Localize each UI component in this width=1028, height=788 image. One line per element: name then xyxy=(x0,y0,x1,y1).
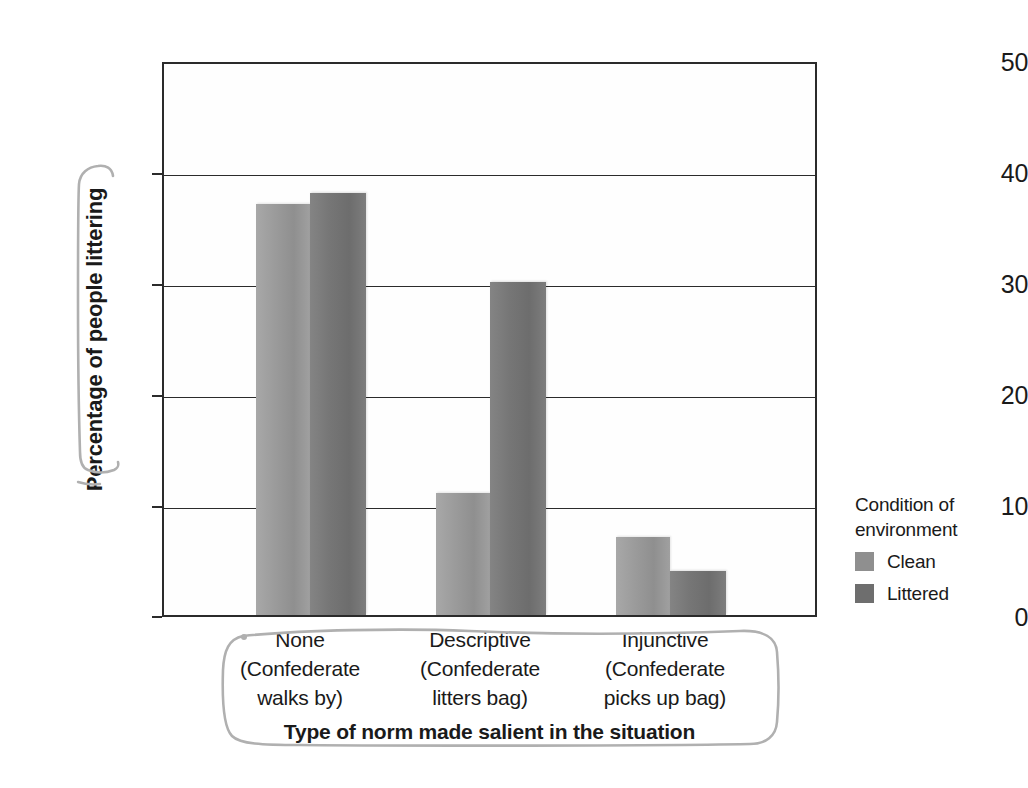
bar-injunctive-littered xyxy=(670,571,726,615)
x-axis-title: Type of norm made salient in the situati… xyxy=(162,720,817,744)
y-tick-mark-30 xyxy=(152,284,162,286)
y-tick-label-40: 40 xyxy=(982,161,1028,186)
legend-label-littered: Littered xyxy=(887,584,949,603)
bar-descriptive-littered xyxy=(490,282,546,615)
plot-area xyxy=(162,62,817,617)
bar-none-littered xyxy=(310,193,366,615)
legend-title: Condition of environment xyxy=(855,492,1015,542)
y-tick-label-50: 50 xyxy=(982,50,1028,75)
bar-none-clean xyxy=(256,204,310,615)
legend-item-clean: Clean xyxy=(855,552,1015,571)
y-axis-title: Percentage of people littering xyxy=(78,62,112,617)
y-tick-mark-0 xyxy=(152,616,162,618)
x-group-sub2-none: walks by) xyxy=(205,683,395,712)
y-tick-mark-20 xyxy=(152,395,162,397)
gridline-40 xyxy=(164,175,815,176)
y-tick-mark-40 xyxy=(152,173,162,175)
legend-swatch-clean-icon xyxy=(855,552,874,571)
bar-injunctive-clean xyxy=(616,537,670,615)
y-tick-label-30: 30 xyxy=(982,272,1028,297)
legend-swatch-littered-icon xyxy=(855,584,874,603)
x-group-name-descriptive: Descriptive xyxy=(385,625,575,654)
x-group-sub1-descriptive: (Confederate xyxy=(385,654,575,683)
legend-title-line2: environment xyxy=(855,517,1015,542)
x-group-label-injunctive: Injunctive (Confederate picks up bag) xyxy=(565,625,765,712)
x-group-label-descriptive: Descriptive (Confederate litters bag) xyxy=(385,625,575,712)
x-group-name-injunctive: Injunctive xyxy=(565,625,765,654)
x-group-sub2-injunctive: picks up bag) xyxy=(565,683,765,712)
x-group-name-none: None xyxy=(205,625,395,654)
legend: Condition of environment Clean Littered xyxy=(855,492,1015,616)
legend-item-littered: Littered xyxy=(855,584,1015,603)
legend-title-line1: Condition of xyxy=(855,492,1015,517)
y-tick-mark-10 xyxy=(152,506,162,508)
bar-chart-figure: 50 40 30 20 10 0 Percentage of people li… xyxy=(0,0,1028,788)
x-group-sub1-none: (Confederate xyxy=(205,654,395,683)
bar-descriptive-clean xyxy=(436,493,490,615)
y-tick-label-20: 20 xyxy=(982,383,1028,408)
x-group-label-none: None (Confederate walks by) xyxy=(205,625,395,712)
x-group-sub2-descriptive: litters bag) xyxy=(385,683,575,712)
x-group-sub1-injunctive: (Confederate xyxy=(565,654,765,683)
legend-label-clean: Clean xyxy=(887,552,936,571)
